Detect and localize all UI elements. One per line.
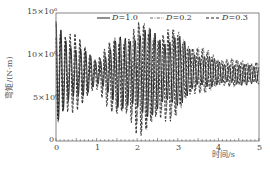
x-tick-3: 3	[176, 144, 181, 152]
x-tick-5: 5	[257, 144, 262, 152]
y-tick-15: 15×10⁶	[27, 8, 57, 16]
x-tick-1: 1	[95, 144, 100, 152]
series-lines	[56, 22, 259, 136]
x-tick-0: 0	[54, 144, 59, 152]
y-axis-label: 弯矩/(N·m)	[3, 48, 14, 108]
legend-item-d03: D=0.3	[222, 13, 248, 22]
legend-item-d10: D=1.0	[112, 13, 138, 22]
x-axis-label: 时间/s	[212, 148, 235, 159]
y-tick-5: 5×10⁶	[33, 94, 58, 102]
legend-item-d02: D=0.2	[166, 13, 192, 22]
y-tick-10: 10×10⁶	[27, 51, 57, 59]
x-tick-2: 2	[135, 144, 140, 152]
